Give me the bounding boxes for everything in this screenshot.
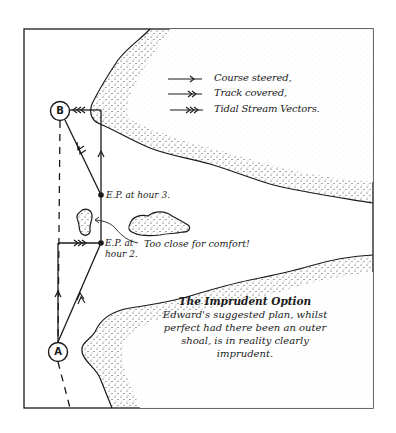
large-shoal: [129, 212, 190, 236]
ep-hour2-label-line2: hour 2.: [105, 249, 138, 259]
track-covered-leg2: [65, 120, 101, 195]
caption-line-4: imprudent.: [150, 347, 340, 360]
ep-hour2-marker: [98, 240, 104, 246]
ep-hour3-label: E.P. at hour 3.: [106, 190, 170, 200]
upper-coastline: [91, 29, 373, 203]
legend-label-course: Course steered,: [214, 72, 291, 83]
warning-annotation: Too close for comfort!: [144, 238, 250, 249]
caption-line-2: perfect had there been an outer: [150, 321, 340, 334]
waypoint-b-label: B: [50, 101, 70, 121]
caption-line-1: Edward's suggested plan, whilst: [150, 308, 340, 321]
navigation-diagram: [0, 0, 396, 433]
waypoint-a-label: A: [48, 342, 68, 362]
caption-line-3: shoal, is in reality clearly: [150, 334, 340, 347]
legend-label-track: Track covered,: [214, 87, 287, 98]
small-shoal: [77, 209, 92, 235]
legend-label-tidal: Tidal Stream Vectors.: [214, 103, 320, 114]
course-steered-leg1: [55, 243, 61, 342]
tidal-vector-leg1: [58, 240, 101, 246]
track-covered-leg1: [58, 243, 101, 342]
caption-title: The Imprudent Option: [150, 295, 340, 308]
ep-hour3-marker: [98, 192, 104, 198]
ep-hour2-label-line1: E.P. at: [105, 238, 133, 248]
approach-line-dashed: [58, 362, 70, 408]
caption-block: The Imprudent Option Edward's suggested …: [150, 295, 340, 360]
